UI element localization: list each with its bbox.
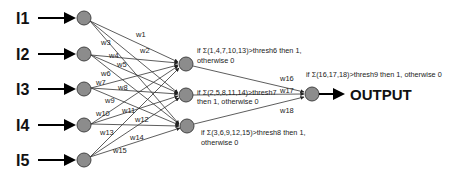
hidden-rule-6-line1: if Σ(1,4,7,10,13)>thresh6 then 1, [197,46,302,55]
weight-w15: w15 [112,146,127,155]
weight-w11: w11 [121,106,135,115]
weight-w9: w9 [104,96,115,105]
weight-w4: w4 [108,51,119,60]
output-label: OUTPUT [350,86,412,103]
weight-w16: w16 [279,74,294,83]
weight-w18: w18 [279,106,294,115]
weight-w14: w14 [129,133,144,142]
input-node-3 [77,82,91,96]
input-node-5 [77,153,91,167]
hidden-rule-7-line1: if Σ(2,5,8,11,14)>thresh7 [197,88,277,97]
weight-w2: w2 [139,46,150,55]
weight-w13: w13 [99,128,114,137]
input-label-i3: I3 [16,81,29,98]
hidden-rule-6-line2: otherwise 0 [197,56,234,65]
input-layer [77,11,91,167]
weight-w5: w5 [116,60,127,69]
input-label-i5: I5 [16,152,29,169]
input-node-2 [77,47,91,61]
input-label-i1: I1 [16,10,29,27]
weight-w12: w12 [134,115,149,124]
hidden-layer [179,57,194,133]
weight-w6: w6 [100,69,111,78]
weight-w7: w7 [95,78,106,87]
input-arrows [38,18,74,160]
hidden-rule-7-line2: then 1, otherwise 0 [197,97,259,106]
weight-w1: w1 [135,30,146,39]
weight-w8: w8 [117,83,128,92]
hidden-rule-8-line1: if Σ(3,6,9,12,15)>thresh8 then 1, [201,128,306,137]
weight-w10: w10 [95,109,110,118]
input-label-i2: I2 [16,46,29,63]
output-node-9 [305,87,319,101]
hidden-node-6 [179,57,193,71]
hidden-rules: if Σ(1,4,7,10,13)>thresh6 then 1, otherw… [197,46,306,147]
weight-w17: w17 [279,86,294,95]
hidden-node-8 [180,119,194,133]
weight-w3: w3 [100,38,111,47]
output-rule: if Σ(16,17,18)>thresh9 then 1, otherwise… [306,70,442,79]
hidden-node-7 [179,88,193,102]
input-label-i4: I4 [16,117,29,134]
hidden-rule-8-line2: otherwise 0 [201,138,238,147]
input-node-4 [77,118,91,132]
neural-network-diagram: I1 I2 I3 I4 I5 [0,0,463,178]
input-node-1 [77,11,91,25]
